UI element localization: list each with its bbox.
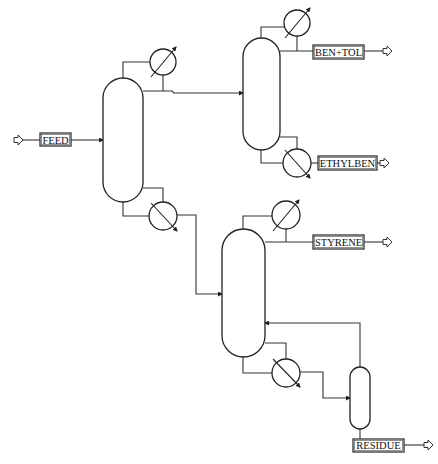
- ethylben-stream: ETHYLBEN: [311, 156, 389, 170]
- product-arrow-icon: [383, 237, 392, 247]
- ben-tol-label: BEN+TOL: [315, 47, 362, 58]
- feed-source-arrow-icon: [14, 135, 23, 145]
- residue-stream: RESIDUE: [353, 439, 433, 452]
- column-3[interactable]: [222, 229, 265, 357]
- product-arrow-icon: [424, 440, 433, 450]
- residue-label: RESIDUE: [356, 440, 400, 451]
- column-1-bottoms-line: [177, 215, 222, 294]
- ben-tol-label-box[interactable]: BEN+TOL: [313, 45, 364, 59]
- styrene-label-box[interactable]: STYRENE: [313, 235, 364, 249]
- column-1-vessel[interactable]: [103, 78, 143, 202]
- process-flow-diagram: FEED BEN+TOL: [0, 0, 438, 464]
- product-arrow-icon: [383, 46, 392, 56]
- column-1[interactable]: [103, 78, 143, 202]
- product-arrow-icon: [380, 158, 389, 168]
- column-2[interactable]: [243, 38, 280, 150]
- styrene-stream: STYRENE: [265, 235, 392, 249]
- feed-label: FEED: [42, 135, 69, 146]
- flash-drum-vessel[interactable]: [350, 367, 370, 429]
- flash-drum[interactable]: [350, 367, 370, 429]
- column-3-vessel[interactable]: [222, 229, 265, 357]
- feed-label-box[interactable]: FEED: [40, 133, 71, 146]
- column-2-vessel[interactable]: [243, 38, 280, 150]
- residue-label-box[interactable]: RESIDUE: [353, 439, 404, 452]
- ethylben-label-box[interactable]: ETHYLBEN: [318, 156, 377, 170]
- column-3-bottoms-line: [300, 372, 350, 398]
- column-1-distillate-line: [143, 91, 243, 93]
- ethylben-label: ETHYLBEN: [320, 158, 376, 169]
- styrene-label: STYRENE: [315, 237, 362, 248]
- feed-stream: FEED: [14, 133, 103, 146]
